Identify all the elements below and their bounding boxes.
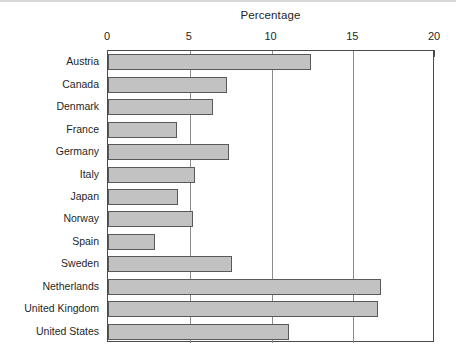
category-label: Denmark — [56, 100, 99, 112]
bar — [108, 99, 213, 115]
category-label: Germany — [56, 145, 99, 157]
grid-line — [353, 51, 354, 343]
x-axis-tick-label: 10 — [264, 30, 276, 42]
x-axis-tick-label: 5 — [186, 30, 192, 42]
horizontal-bar-chart: Percentage 05101520 AustriaCanadaDenmark… — [0, 0, 456, 360]
x-axis-tick-label: 15 — [346, 30, 358, 42]
category-label: United States — [36, 325, 99, 337]
category-label: Netherlands — [42, 280, 99, 292]
category-label: France — [66, 123, 99, 135]
category-label: Italy — [80, 168, 99, 180]
x-axis-tick-mark — [434, 50, 435, 57]
bar — [108, 54, 311, 70]
bar — [108, 211, 193, 227]
bar — [108, 234, 155, 250]
chart-title: Percentage — [107, 9, 434, 21]
bar — [108, 144, 229, 160]
category-label: Austria — [66, 55, 99, 67]
chart-page: Percentage 05101520 AustriaCanadaDenmark… — [0, 0, 456, 360]
category-label: Canada — [62, 78, 99, 90]
bar — [108, 256, 232, 272]
bar — [108, 122, 177, 138]
category-label: Spain — [72, 235, 99, 247]
category-label-column: AustriaCanadaDenmarkFranceGermanyItalyJa… — [0, 50, 103, 342]
bar — [108, 77, 227, 93]
category-label: Japan — [70, 190, 99, 202]
plot-area — [107, 50, 434, 342]
bar — [108, 301, 378, 317]
x-axis-tick-label: 0 — [104, 30, 110, 42]
grid-line — [190, 51, 191, 343]
category-label: United Kingdom — [24, 302, 99, 314]
bar — [108, 189, 178, 205]
category-label: Norway — [63, 212, 99, 224]
x-axis-tick-label: 20 — [428, 30, 440, 42]
category-label: Sweden — [61, 257, 99, 269]
bar — [108, 279, 381, 295]
bar — [108, 167, 195, 183]
grid-line — [272, 51, 273, 343]
bar — [108, 324, 289, 340]
